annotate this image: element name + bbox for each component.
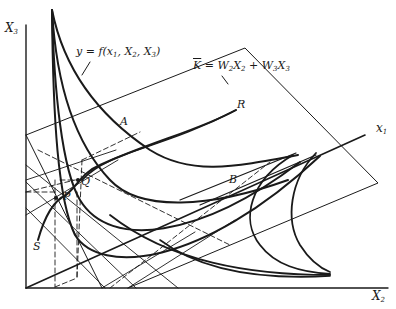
isoquant-diagram bbox=[0, 0, 396, 309]
production-function-label: y = f(x1, X2, X3) bbox=[76, 46, 160, 59]
isoquant-inner bbox=[52, 10, 300, 230]
expansion-path bbox=[38, 110, 236, 240]
cost-plane-label: K = W2X2 + W3X3 bbox=[193, 60, 290, 73]
parabola-curve bbox=[250, 155, 330, 274]
plane-leader bbox=[222, 76, 228, 84]
function-leader bbox=[82, 62, 90, 75]
expansion-path-upper bbox=[82, 110, 236, 180]
isoquant-outer bbox=[52, 10, 298, 167]
label-r: R bbox=[237, 99, 245, 110]
parabola-curve bbox=[292, 153, 330, 272]
construction-line bbox=[26, 160, 118, 215]
x2-axis-label: X2 bbox=[372, 290, 385, 304]
base-curve bbox=[110, 215, 330, 275]
dashed-line bbox=[55, 278, 77, 287]
cost-plane bbox=[26, 48, 378, 288]
point-p bbox=[54, 196, 58, 200]
cost-plane-inner-edge bbox=[26, 135, 102, 288]
label-q: Q bbox=[81, 176, 90, 187]
x1-axis-label: x1 bbox=[376, 122, 387, 136]
x3-axis-label: X3 bbox=[5, 22, 18, 36]
construction-line bbox=[26, 165, 178, 288]
label-b: B bbox=[229, 174, 237, 185]
construction-line bbox=[26, 182, 136, 288]
label-s: S bbox=[33, 241, 41, 252]
label-p: P bbox=[63, 191, 70, 202]
label-a: A bbox=[120, 116, 128, 127]
point-q bbox=[76, 178, 80, 182]
